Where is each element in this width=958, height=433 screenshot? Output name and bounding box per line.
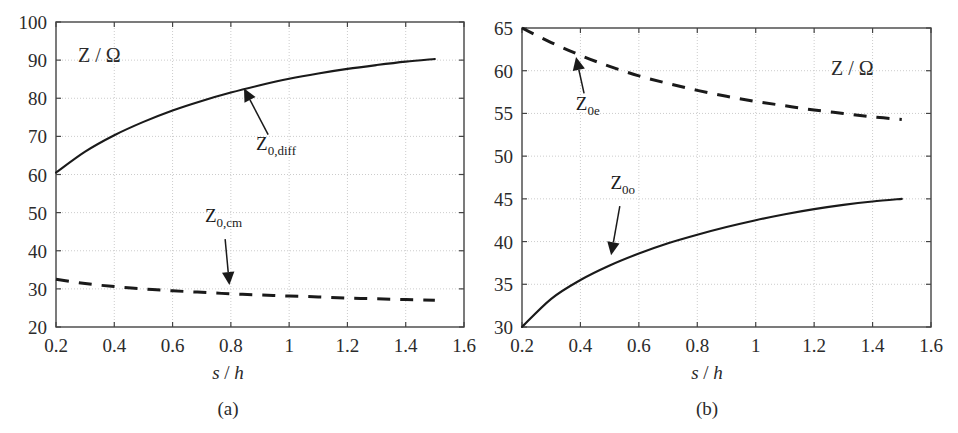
y-tick-label: 55 (494, 103, 513, 124)
y-tick-label: 60 (28, 165, 47, 186)
x-tick-labels-b: 0.20.40.60.811.21.41.6 (510, 335, 943, 356)
y-tick-label: 40 (494, 232, 513, 253)
annotation-arrowhead-icon (222, 272, 234, 286)
x-tick-label: 1.6 (452, 335, 476, 356)
y-tick-label: 60 (494, 61, 513, 82)
panel-a-svg: 2030405060708090100 0.20.40.60.811.21.41… (0, 0, 479, 433)
y-tick-label: 80 (28, 88, 47, 109)
y-tick-label: 40 (28, 241, 47, 262)
x-tick-label: 0.8 (219, 335, 243, 356)
panel-caption-a: (a) (217, 398, 238, 420)
y-tick-label: 65 (494, 18, 513, 39)
y-tick-label: 100 (19, 12, 48, 33)
x-tick-label: 1 (751, 335, 761, 356)
chart-panel-a: 2030405060708090100 0.20.40.60.811.21.41… (0, 0, 479, 433)
y-unit-label-a: Z / Ω (78, 44, 121, 66)
x-tick-label: 0.2 (510, 335, 534, 356)
annotation-leader-line (613, 206, 619, 242)
curve-z0diff (56, 59, 435, 173)
annotation-leader-line (250, 100, 268, 135)
x-tick-labels-a: 0.20.40.60.811.21.41.6 (44, 335, 476, 356)
x-tick-label: 0.2 (44, 335, 68, 356)
panel-b-svg: 3035404550556065 0.20.40.60.811.21.41.6 … (479, 0, 958, 433)
annotation-leader-line (225, 239, 228, 272)
curve-z0o (522, 199, 902, 327)
panel-caption-b: (b) (696, 398, 718, 420)
x-tick-label: 0.6 (627, 335, 651, 356)
annotation-leader-line (579, 70, 584, 94)
x-tick-label: 1.2 (802, 335, 826, 356)
y-tick-label: 70 (28, 126, 47, 147)
y-tick-label: 45 (494, 189, 513, 210)
curve-annotation-z0o: Z0o (610, 172, 635, 197)
y-tick-labels-a: 2030405060708090100 (19, 12, 48, 338)
y-tick-label: 30 (28, 279, 47, 300)
curve-annotation-z0cm: Z0,cm (205, 205, 242, 230)
x-tick-label: 0.4 (569, 335, 593, 356)
y-tick-labels-b: 3035404550556065 (494, 18, 513, 338)
x-tick-label: 1 (284, 335, 294, 356)
x-tick-label: 1.4 (394, 335, 418, 356)
x-tick-label: 1.2 (336, 335, 360, 356)
chart-panel-b: 3035404550556065 0.20.40.60.811.21.41.6 … (479, 0, 958, 433)
y-tick-label: 35 (494, 274, 513, 295)
x-tick-label: 0.8 (685, 335, 709, 356)
y-unit-label-b: Z / Ω (831, 57, 874, 79)
y-tick-label: 90 (28, 50, 47, 71)
y-tick-label: 50 (494, 146, 513, 167)
x-tick-label: 1.4 (861, 335, 885, 356)
annotation-arrowhead-icon (607, 241, 619, 255)
curve-annotation-z0e: Z0e (576, 93, 600, 118)
y-tick-label: 50 (28, 203, 47, 224)
x-tick-label: 0.6 (161, 335, 185, 356)
curve-annotations-a: Z0,diffZ0,cm (205, 88, 297, 285)
x-tick-label: 1.6 (919, 335, 943, 356)
curve-z0cm (56, 279, 435, 300)
figure-container: 2030405060708090100 0.20.40.60.811.21.41… (0, 0, 958, 433)
x-axis-title-a: s / h (212, 362, 244, 383)
x-axis-title-b: s / h (691, 362, 723, 383)
x-tick-label: 0.4 (102, 335, 126, 356)
annotation-arrowhead-icon (573, 57, 585, 71)
gridlines-a (56, 22, 464, 327)
